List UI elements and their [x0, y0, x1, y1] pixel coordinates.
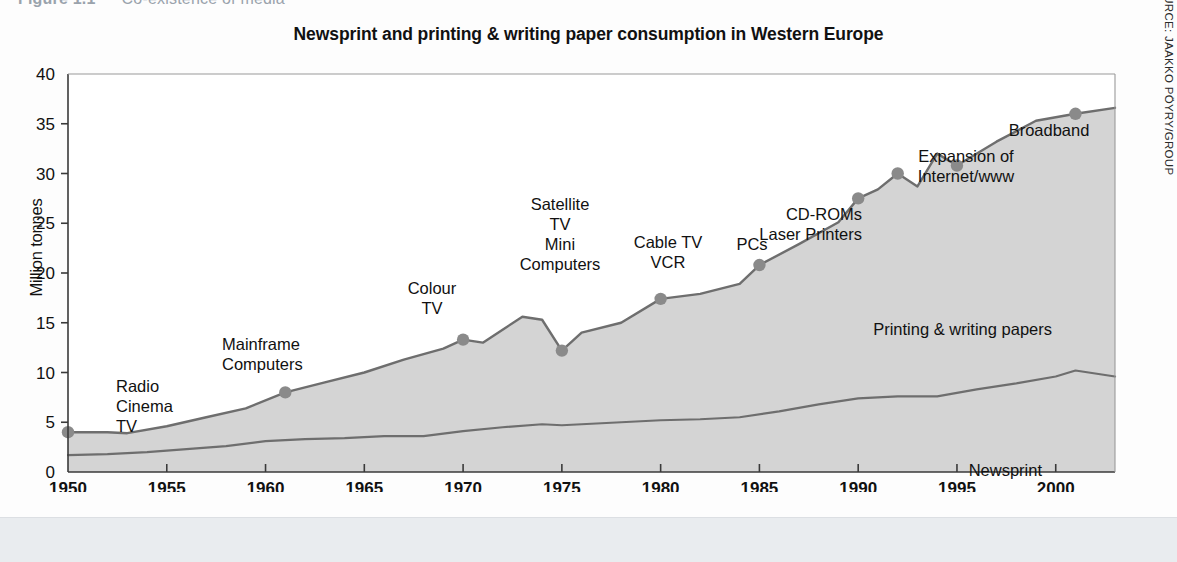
figure-caption-text: Co-existence of media: [122, 0, 285, 7]
area-chart: 0510152025303540 19501955196019651970197…: [0, 52, 1177, 492]
data-point-marker: [852, 192, 864, 204]
data-point-marker: [1069, 108, 1081, 120]
data-point-marker: [457, 333, 469, 345]
data-point-marker: [654, 293, 666, 305]
y-axis-title: Million tonnes: [27, 168, 46, 328]
y-tick-label: 40: [36, 65, 55, 84]
y-tick-label: 10: [36, 364, 55, 383]
x-tick-label: 1965: [345, 479, 383, 492]
y-tick-label: 35: [36, 115, 55, 134]
series-label-newsprint: Newsprint: [969, 461, 1043, 479]
data-point-marker: [556, 344, 568, 356]
x-axis-tick-labels: 1950195519601965197019751980198519901995…: [49, 479, 1075, 492]
y-tick-label: 5: [46, 413, 55, 432]
x-tick-label: 1950: [49, 479, 87, 492]
x-tick-label: 1955: [148, 479, 186, 492]
x-tick-label: 1985: [741, 479, 779, 492]
data-point-marker: [753, 259, 765, 271]
chart-title: Newsprint and printing & writing paper c…: [0, 24, 1177, 45]
x-tick-label: 1995: [938, 479, 976, 492]
x-tick-label: 1990: [839, 479, 877, 492]
data-point-marker: [892, 167, 904, 179]
series-label-printing-writing-papers: Printing & writing papers: [873, 320, 1052, 338]
data-point-marker: [279, 386, 291, 398]
figure-caption-number: Figure 1.1: [18, 0, 96, 7]
x-tick-label: 1960: [247, 479, 285, 492]
x-tick-label: 1980: [642, 479, 680, 492]
footer-band: [0, 518, 1177, 562]
figure-page: Figure 1.1Co-existence of media Newsprin…: [0, 0, 1177, 562]
annotation-broadband: Broadband: [1009, 121, 1090, 139]
x-tick-label: 1975: [543, 479, 581, 492]
chart-plot-area: Million tonnes 0510152025303540 19501955…: [0, 52, 1177, 492]
source-note: SOURCE: JAAKKO PÖYRY/GROUP: [1163, 0, 1175, 238]
x-tick-label: 1970: [444, 479, 482, 492]
x-tick-label: 2000: [1037, 479, 1075, 492]
figure-caption: Figure 1.1Co-existence of media: [18, 0, 285, 8]
